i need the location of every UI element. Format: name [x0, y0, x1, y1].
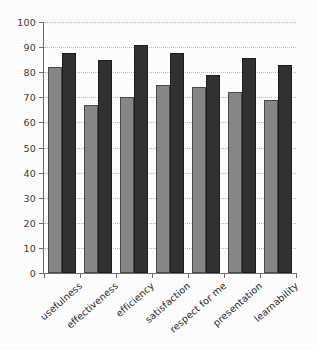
bar-group [84, 22, 112, 273]
x-tick-mark [260, 273, 261, 278]
bar [228, 92, 242, 273]
y-tick-label: 20 [0, 217, 36, 228]
bar-group [192, 22, 220, 273]
y-tick-label: 50 [0, 142, 36, 153]
bar [206, 75, 220, 273]
x-tick-mark [224, 273, 225, 278]
bar [170, 53, 184, 273]
plot-area [44, 22, 296, 273]
bar [120, 97, 134, 273]
bar-group [120, 22, 148, 273]
y-tick-label: 0 [0, 268, 36, 279]
x-tick-mark [152, 273, 153, 278]
bar [278, 65, 292, 273]
bar-group [228, 22, 256, 273]
y-tick-label: 40 [0, 167, 36, 178]
bar [62, 53, 76, 273]
bar-group [48, 22, 76, 273]
bar [264, 100, 278, 273]
y-tick-label: 30 [0, 192, 36, 203]
y-tick-label: 80 [0, 67, 36, 78]
y-tick-label: 90 [0, 42, 36, 53]
bar [242, 58, 256, 273]
y-tick-label: 10 [0, 242, 36, 253]
x-tick-mark [188, 273, 189, 278]
bar-group [264, 22, 292, 273]
bar-chart: 0102030405060708090100 usefulnesseffecti… [0, 0, 318, 350]
x-tick-mark [44, 273, 45, 278]
y-tick-label: 100 [0, 17, 36, 28]
x-tick-mark [296, 273, 297, 278]
bar [98, 60, 112, 273]
x-tick-mark [80, 273, 81, 278]
bar [48, 67, 62, 273]
bar [134, 45, 148, 273]
y-tick-label: 70 [0, 92, 36, 103]
bar [84, 105, 98, 273]
bar-group [156, 22, 184, 273]
y-tick-label: 60 [0, 117, 36, 128]
bar [192, 87, 206, 273]
bar [156, 85, 170, 273]
x-tick-mark [116, 273, 117, 278]
